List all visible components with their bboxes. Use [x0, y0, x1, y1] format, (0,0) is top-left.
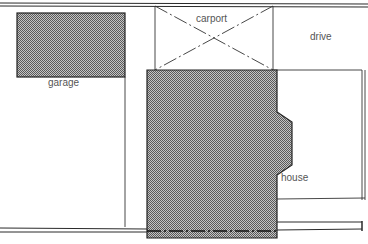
- drive-label: drive: [310, 32, 332, 42]
- top-boundary-line: [0, 3, 368, 7]
- garage-label: garage: [48, 78, 79, 88]
- house-label: house: [281, 173, 308, 183]
- carport-label: carport: [196, 14, 227, 24]
- house-block: [147, 70, 292, 238]
- garage-block: [17, 13, 125, 77]
